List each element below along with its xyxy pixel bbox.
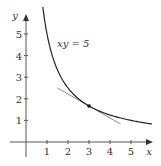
tangent-point bbox=[87, 104, 91, 108]
y-axis-label: y bbox=[11, 10, 18, 21]
y-tick-4: 4 bbox=[16, 51, 22, 62]
x-tick-3: 3 bbox=[86, 146, 92, 157]
y-tick-3: 3 bbox=[16, 72, 22, 83]
x-tick-5: 5 bbox=[128, 146, 134, 157]
x-tick-2: 2 bbox=[65, 146, 71, 157]
y-tick-2: 2 bbox=[16, 94, 22, 105]
y-tick-1: 1 bbox=[16, 115, 22, 126]
y-tick-5: 5 bbox=[16, 29, 22, 40]
x-tick-4: 4 bbox=[107, 146, 113, 157]
y-tick-labels: 1 2 3 4 5 bbox=[16, 29, 22, 126]
x-axis-arrow-icon bbox=[146, 139, 153, 145]
x-tick-labels: 1 2 3 4 5 bbox=[44, 146, 134, 157]
y-axis-arrow-icon bbox=[23, 14, 29, 21]
xy-equals-5-curve bbox=[43, 7, 152, 124]
chart: 1 2 3 4 5 1 2 3 4 5 x y xy = 5 bbox=[0, 0, 161, 166]
x-tick-1: 1 bbox=[44, 146, 50, 157]
axes bbox=[10, 14, 153, 157]
x-axis-label: x bbox=[146, 146, 152, 157]
curve-label: xy = 5 bbox=[57, 38, 89, 49]
